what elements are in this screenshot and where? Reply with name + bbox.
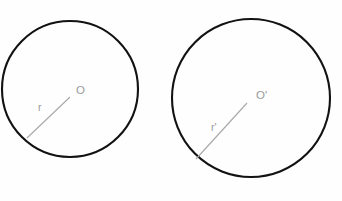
large-circle-radius-label: r' [211, 121, 217, 133]
small-circle-radius-label: r [38, 101, 42, 113]
large-circle-center-label: O' [256, 89, 267, 101]
diagram-canvas: O r O' r' [0, 0, 342, 201]
small-circle-center-label: O [76, 84, 85, 96]
two-circles-figure: O r O' r' [0, 0, 342, 201]
